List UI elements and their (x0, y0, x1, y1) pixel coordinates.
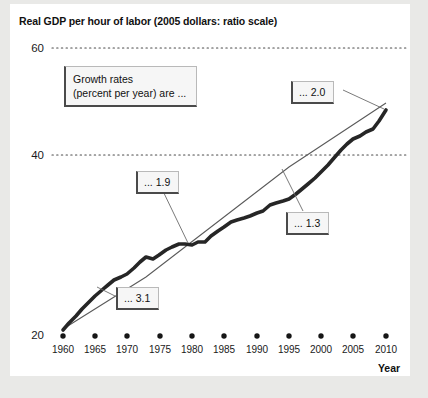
chart-plot-area (10, 4, 410, 376)
xtick-label-1975: 1975 (143, 344, 177, 355)
trend-line-series (63, 103, 386, 329)
growth-rates-legend-box: Growth rates (percent per year) are ... (64, 66, 197, 107)
callout-growth-2-0: ... 2.0 (291, 81, 334, 104)
xtick-label-1980: 1980 (175, 344, 209, 355)
legend-line-1: Growth rates (73, 72, 186, 86)
xaxis-tick-dots (60, 333, 388, 338)
page-background: Real GDP per hour of labor (2005 dollars… (0, 0, 428, 398)
ytick-label-20: 20 (18, 329, 44, 341)
ytick-label-40: 40 (18, 149, 44, 161)
xtick-label-1990: 1990 (240, 344, 274, 355)
callout-growth-1-3: ... 1.3 (286, 212, 329, 235)
xtick-label-1970: 1970 (110, 344, 144, 355)
xtick-label-1965: 1965 (78, 344, 112, 355)
leader-line-19 (161, 187, 188, 243)
xaxis-title: Year (369, 362, 409, 374)
xtick-label-1995: 1995 (272, 344, 306, 355)
xtick-label-1985: 1985 (207, 344, 241, 355)
callout-growth-3-1: ... 3.1 (116, 287, 159, 310)
legend-line-2: (percent per year) are ... (73, 86, 186, 100)
xtick-label-2000: 2000 (304, 344, 338, 355)
xtick-label-2005: 2005 (336, 344, 370, 355)
ytick-label-60: 60 (18, 42, 44, 54)
xtick-label-1960: 1960 (46, 344, 80, 355)
chart-figure-panel: Real GDP per hour of labor (2005 dollars… (10, 4, 410, 376)
callout-growth-1-9: ... 1.9 (136, 171, 179, 194)
leader-line-20 (343, 90, 384, 109)
data-line-series (63, 110, 386, 330)
xtick-label-2010: 2010 (369, 344, 403, 355)
